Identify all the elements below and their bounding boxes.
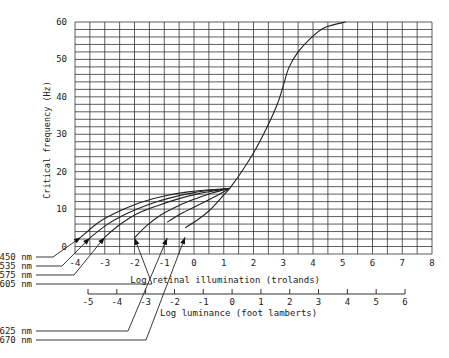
y-tick-label: 20	[56, 167, 67, 177]
x-axis-label: Log retinal illumination (trolands)	[130, 275, 320, 285]
y-tick-labels: 0102030405060	[56, 17, 67, 252]
x2-tick-label: 4	[345, 297, 350, 307]
x2-tick-label: 3	[316, 297, 321, 307]
x-tick-label: -2	[129, 258, 140, 268]
common-curve	[230, 22, 346, 189]
curves	[81, 22, 346, 238]
x-tick-label: 5	[340, 258, 345, 268]
wavelength-label: 605 nm	[0, 279, 32, 289]
x-tick-label: 6	[370, 258, 375, 268]
x2-tick-label: -4	[111, 297, 122, 307]
x2-tick-label: -2	[169, 297, 180, 307]
x-tick-label: -4	[70, 258, 81, 268]
wavelength-label: 670 nm	[0, 335, 32, 345]
x2-tick-label: 2	[287, 297, 292, 307]
x-tick-label: -3	[99, 258, 110, 268]
x-tick-label: 2	[251, 258, 256, 268]
y-tick-label: 40	[56, 92, 67, 102]
x2-tick-label: -1	[198, 297, 209, 307]
arrowhead-icon	[180, 237, 185, 244]
luminance-axis: -5-4-3-2-10123456	[83, 289, 408, 307]
x-tick-label: 4	[310, 258, 315, 268]
x-tick-label: -1	[159, 258, 170, 268]
x-tick-label: 3	[281, 258, 286, 268]
y-tick-label: 10	[56, 204, 67, 214]
x2-tick-label: 1	[258, 297, 263, 307]
y-axis-label: Critical frequency (Hz)	[42, 81, 52, 199]
x2-tick-label: -5	[83, 297, 94, 307]
y-tick-label: 30	[56, 129, 67, 139]
wavelength-labels: 450 nm535 nm575 nm605 nm625 nm670 nm	[0, 237, 185, 345]
y-tick-label: 60	[56, 17, 67, 27]
x2-tick-label: 6	[402, 297, 407, 307]
x2-tick-label: 5	[373, 297, 378, 307]
x2-axis-label: Log luminance (foot lamberts)	[160, 308, 317, 318]
chart: 0102030405060 Critical frequency (Hz) -4…	[0, 0, 449, 358]
x2-tick-label: 0	[229, 297, 234, 307]
y-tick-label: 50	[56, 54, 67, 64]
x-tick-label: 1	[221, 258, 226, 268]
x-tick-labels: -4-3-2-1012345678	[70, 258, 435, 268]
x-tick-label: 7	[400, 258, 405, 268]
x-tick-label: 8	[429, 258, 434, 268]
x-tick-label: 0	[191, 258, 196, 268]
